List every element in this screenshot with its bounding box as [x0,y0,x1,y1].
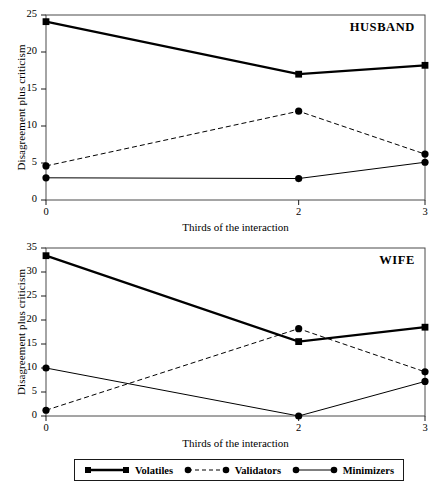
husband-x-axis-title: Thirds of the interaction [46,221,425,233]
wife-point-validators [42,407,49,414]
wife-point-validators [295,325,302,332]
wife-x-tick-label: 0 [34,422,58,433]
wife-y-tick-label: 10 [15,361,37,372]
wife-point-volatiles [43,252,50,259]
husband-y-tick-label: 0 [15,193,37,204]
wife-y-tick-label: 25 [15,289,37,300]
husband-point-minimizers [295,175,302,182]
husband-y-tick-label: 15 [15,82,37,93]
wife-y-tick-label: 5 [15,385,37,396]
legend-item-minimizers: Minimizers [292,464,394,476]
husband-series-validators [46,111,425,166]
husband-y-tick-label: 20 [15,45,37,56]
legend-label-minimizers: Minimizers [343,465,394,476]
husband-y-tick-label: 25 [15,8,37,19]
wife-series-volatiles [46,256,425,342]
wife-series-validators [46,329,425,411]
chart-panel-wife: WIFE Disagreement plus criticism Thirds … [0,240,442,445]
husband-point-validators [295,108,302,115]
husband-x-tick-label: 2 [287,206,311,217]
husband-series-minimizers [46,162,425,178]
wife-x-tick-label: 3 [413,422,437,433]
chart-legend: Volatiles Validators Minimizers [74,459,404,481]
husband-point-validators [42,162,49,169]
chart-panel-husband: HUSBAND Disagreement plus criticism Thir… [0,0,442,240]
wife-point-minimizers [42,364,49,371]
wife-y-tick-label: 0 [15,409,37,420]
husband-y-tick-label: 10 [15,119,37,130]
wife-y-tick-label: 30 [15,265,37,276]
husband-plot-canvas [0,0,442,240]
legend-swatch-volatiles-icon [84,464,130,476]
wife-point-minimizers [421,378,428,385]
legend-label-volatiles: Volatiles [135,465,173,476]
husband-y-tick-label: 5 [15,156,37,167]
legend-item-validators: Validators [184,464,281,476]
husband-x-tick-label: 3 [413,206,437,217]
husband-point-validators [421,151,428,158]
legend-swatch-minimizers-icon [292,464,338,476]
husband-point-volatiles [422,62,429,69]
husband-y-axis-title: Disagreement plus criticism [14,15,28,200]
husband-point-minimizers [42,174,49,181]
wife-y-tick-label: 35 [15,241,37,252]
husband-x-tick-label: 0 [34,206,58,217]
legend-row: Volatiles Validators Minimizers [75,460,403,480]
wife-point-validators [421,368,428,375]
wife-plot-canvas [0,240,442,445]
wife-y-tick-label: 15 [15,337,37,348]
wife-point-volatiles [422,324,429,331]
wife-panel-title: WIFE [379,253,415,268]
husband-point-volatiles [295,71,302,78]
wife-y-tick-label: 20 [15,313,37,324]
legend-item-volatiles: Volatiles [84,464,173,476]
husband-point-volatiles [43,18,50,25]
wife-point-volatiles [295,338,302,345]
figure-root: HUSBAND Disagreement plus criticism Thir… [0,0,442,489]
husband-point-minimizers [421,159,428,166]
legend-swatch-validators-icon [184,464,230,476]
wife-point-minimizers [295,412,302,419]
husband-panel-title: HUSBAND [350,20,415,35]
wife-x-tick-label: 2 [287,422,311,433]
legend-label-validators: Validators [235,465,281,476]
wife-x-axis-title: Thirds of the interaction [46,437,425,449]
